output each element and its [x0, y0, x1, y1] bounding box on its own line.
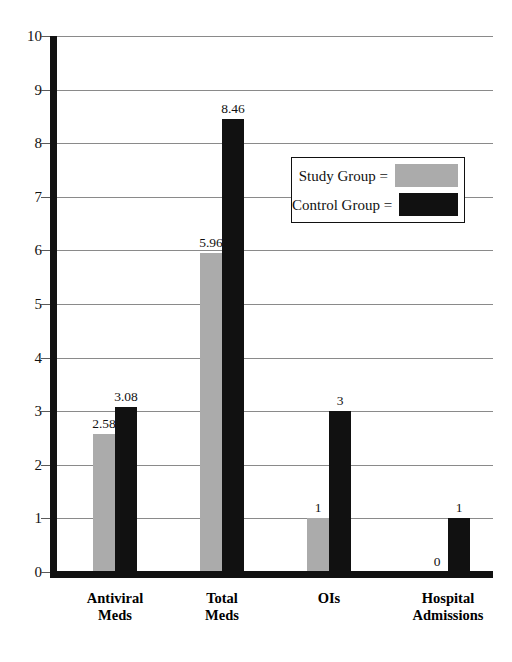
bar-control-group: [329, 411, 351, 572]
y-axis-tick-labels: 109876543210: [8, 0, 42, 662]
gridline: [50, 250, 493, 251]
legend-label-control-group: Control Group =: [292, 197, 392, 213]
bar-value-label: 5.96: [188, 236, 234, 250]
y-axis-tick-label: 6: [16, 243, 42, 258]
bar-value-label: 1: [436, 501, 482, 515]
y-axis-tick: [41, 572, 50, 573]
y-axis-line: [50, 36, 57, 578]
x-axis-label-2: Total Meds: [162, 590, 282, 624]
study-swatch: [395, 164, 458, 187]
gridline: [50, 304, 493, 305]
y-axis-tick-label: 5: [16, 297, 42, 312]
legend-item-control-group: Control Group =: [292, 191, 466, 218]
y-axis-tick: [41, 36, 50, 37]
y-axis-tick-label: 1: [16, 511, 42, 526]
y-axis-tick-label: 0: [16, 565, 42, 580]
bar-chart: 109876543210 Antiviral MedsTotal MedsOIs…: [0, 0, 512, 662]
control-swatch: [399, 193, 458, 216]
x-axis-label-3: OIs: [269, 590, 389, 607]
bar-control-group: [222, 119, 244, 572]
y-axis-tick: [41, 358, 50, 359]
bar-value-label: 8.46: [210, 102, 256, 116]
y-axis-tick-label: 8: [16, 136, 42, 151]
bar-value-label: 3.08: [103, 390, 149, 404]
plot-area: [50, 36, 493, 572]
bar-value-label: 1: [295, 501, 341, 515]
y-axis-tick-label: 2: [16, 458, 42, 473]
y-axis-tick: [41, 465, 50, 466]
gridline: [50, 358, 493, 359]
y-axis-tick-label: 3: [16, 404, 42, 419]
y-axis-tick-label: 9: [16, 83, 42, 98]
bar-study-group: [200, 253, 222, 572]
legend-item-study-group: Study Group =: [292, 162, 466, 189]
x-axis-label-1: Antiviral Meds: [55, 590, 175, 624]
y-axis-tick: [41, 411, 50, 412]
bar-study-group: [93, 434, 115, 572]
y-axis-tick: [41, 518, 50, 519]
y-axis-tick: [41, 90, 50, 91]
y-axis-tick: [41, 304, 50, 305]
bar-value-label: 0: [414, 555, 460, 569]
gridline: [50, 90, 493, 91]
x-axis-label-4: Hospital Admissions: [388, 590, 508, 624]
bar-value-label: 2.58: [81, 417, 127, 431]
gridline: [50, 143, 493, 144]
y-axis-tick: [41, 197, 50, 198]
y-axis-tick: [41, 250, 50, 251]
legend: Study Group = Control Group =: [291, 157, 465, 223]
bar-value-label: 3: [317, 394, 363, 408]
y-axis-tick-label: 10: [16, 29, 42, 44]
x-axis-line: [50, 571, 493, 578]
y-axis-tick-label: 7: [16, 190, 42, 205]
y-axis-tick-label: 4: [16, 351, 42, 366]
gridline: [50, 36, 493, 37]
bar-study-group: [307, 518, 329, 572]
legend-label-study-group: Study Group =: [299, 168, 388, 184]
y-axis-tick: [41, 143, 50, 144]
bar-control-group: [115, 407, 137, 572]
